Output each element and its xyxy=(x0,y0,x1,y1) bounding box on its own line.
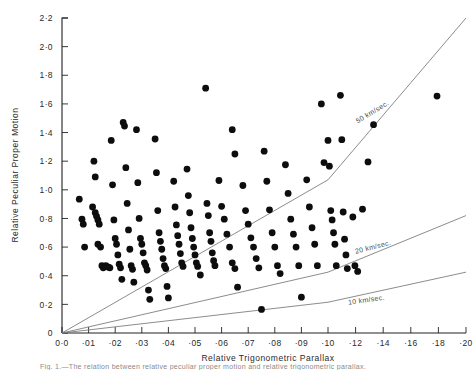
data-point xyxy=(325,137,332,144)
data-point xyxy=(188,224,195,231)
x-tick-label: ·05 xyxy=(188,338,202,348)
y-tick-label: 1·4 xyxy=(40,128,54,138)
data-point xyxy=(205,212,212,219)
y-tick-label: 0·8 xyxy=(40,214,54,224)
data-point xyxy=(92,174,99,181)
x-tick-label: ·10 xyxy=(321,338,335,348)
x-tick-label: ·09 xyxy=(295,338,309,348)
x-axis-title: Relative Trigonometric Parallax xyxy=(201,353,334,363)
data-point xyxy=(232,151,239,158)
y-tick-label: 0 xyxy=(48,328,53,338)
data-point xyxy=(287,216,294,223)
data-point xyxy=(113,241,120,248)
data-point xyxy=(184,166,191,173)
data-point xyxy=(338,136,345,143)
data-point xyxy=(97,244,104,251)
data-point xyxy=(153,169,160,176)
data-point xyxy=(212,262,219,269)
plot-background xyxy=(0,0,476,370)
data-point xyxy=(186,209,193,216)
x-tick-label: ·14 xyxy=(376,338,390,348)
data-point xyxy=(129,266,136,273)
data-point xyxy=(326,163,333,170)
data-point xyxy=(124,200,131,207)
data-point xyxy=(117,264,124,271)
y-tick-label: 1·2 xyxy=(40,156,54,166)
data-point xyxy=(126,246,133,253)
x-tick-label: ·16 xyxy=(404,338,418,348)
data-point xyxy=(118,276,125,283)
y-tick-label: 0·6 xyxy=(40,242,54,252)
data-point xyxy=(130,279,137,286)
data-point xyxy=(197,272,204,279)
data-point xyxy=(209,249,216,256)
data-point xyxy=(263,178,270,185)
data-point xyxy=(172,204,179,211)
y-tick-label: 2·2 xyxy=(40,13,54,23)
x-tick-label: ·04 xyxy=(162,338,176,348)
data-point xyxy=(174,232,181,239)
data-point xyxy=(138,241,145,248)
data-point xyxy=(234,284,241,291)
data-point xyxy=(194,263,201,270)
data-point xyxy=(255,264,262,271)
data-point xyxy=(165,295,172,302)
data-point xyxy=(354,268,361,275)
x-tick-label: ·01 xyxy=(82,338,96,348)
data-point xyxy=(434,93,441,100)
data-point xyxy=(258,306,265,313)
data-point xyxy=(160,255,167,262)
data-point xyxy=(137,235,144,242)
data-point xyxy=(206,229,213,236)
data-point xyxy=(185,192,192,199)
data-point xyxy=(303,176,310,183)
data-point xyxy=(144,267,151,274)
data-point xyxy=(136,215,143,222)
y-tick-label: 0·4 xyxy=(40,271,54,281)
data-point xyxy=(290,231,297,238)
figure-caption: Fig. 1.—The relation between relative pe… xyxy=(40,363,366,370)
scatter-plot-figure: 00·20·40·60·81·01·21·41·61·82·02·2 0·0·0… xyxy=(0,0,476,370)
data-point xyxy=(330,229,337,236)
data-point xyxy=(365,159,372,166)
data-point xyxy=(226,244,233,251)
data-point xyxy=(173,222,180,229)
data-point xyxy=(349,214,356,221)
data-point xyxy=(229,126,236,133)
data-point xyxy=(343,252,350,259)
x-tick-label: ·07 xyxy=(241,338,255,348)
data-point xyxy=(133,126,140,133)
data-point xyxy=(122,164,129,171)
data-point xyxy=(261,148,268,155)
data-point xyxy=(245,221,252,228)
data-point xyxy=(145,287,152,294)
x-tick-label: ·20 xyxy=(459,338,473,348)
data-point xyxy=(298,294,305,301)
data-point xyxy=(318,101,325,108)
data-point xyxy=(208,238,215,245)
data-point xyxy=(110,216,117,223)
x-tick-label: 0·0 xyxy=(55,338,69,348)
x-tick-label: ·02 xyxy=(108,338,122,348)
data-point xyxy=(192,252,199,259)
data-point xyxy=(108,137,115,144)
y-tick-label: 1·0 xyxy=(40,185,54,195)
data-point xyxy=(114,252,121,259)
data-point xyxy=(329,216,336,223)
plot-canvas: 00·20·40·60·81·01·21·41·61·82·02·2 0·0·0… xyxy=(0,0,476,370)
data-point xyxy=(309,224,316,231)
data-point xyxy=(333,262,340,269)
data-point xyxy=(332,241,339,248)
data-point xyxy=(152,136,159,143)
x-tick-label: ·06 xyxy=(215,338,229,348)
data-point xyxy=(271,244,278,251)
data-point xyxy=(340,209,347,216)
data-point xyxy=(162,265,169,272)
data-point xyxy=(250,244,257,251)
data-point xyxy=(112,235,119,242)
data-point xyxy=(277,270,284,277)
data-point xyxy=(76,196,83,203)
data-point xyxy=(157,238,164,245)
data-point xyxy=(232,265,239,272)
data-point xyxy=(266,206,273,213)
